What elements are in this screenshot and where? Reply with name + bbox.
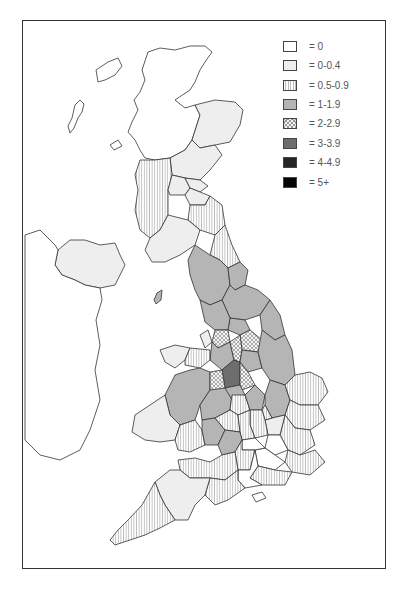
region-kent <box>285 450 325 475</box>
legend-swatch-light-grey <box>283 60 297 71</box>
region-clwyd <box>185 348 210 368</box>
legend-swatch-crosshatch <box>283 118 297 129</box>
region-merseyside <box>200 330 212 348</box>
legend-label: = 1-1.9 <box>309 99 340 110</box>
region-grampian <box>192 100 243 148</box>
legend-item-4: = 2-2.9 <box>283 117 340 130</box>
region-isle-of-wight <box>252 492 266 502</box>
legend-swatch-black <box>283 177 297 188</box>
legend-swatch-dark-grey <box>283 138 297 149</box>
legend-swatch-vertical-lines <box>283 80 297 91</box>
legend-item-6: = 4-4.9 <box>283 156 340 169</box>
legend-item-5: = 3-3.9 <box>283 137 340 150</box>
region-isle-of-man <box>154 290 162 304</box>
legend-swatch-mid-grey <box>283 99 297 110</box>
legend-item-1: = 0-0.4 <box>283 59 340 72</box>
region-berkshire <box>242 438 265 450</box>
legend-label: = 0 <box>309 41 323 52</box>
legend-item-7: = 5+ <box>283 176 329 189</box>
legend-label: = 4-4.9 <box>309 157 340 168</box>
region-skye <box>96 58 122 82</box>
legend-label: = 5+ <box>309 177 329 188</box>
legend-item-0: = 0 <box>283 40 323 53</box>
legend-item-2: = 0.5-0.9 <box>283 79 349 92</box>
legend-label: = 2-2.9 <box>309 118 340 129</box>
legend-label: = 0-0.4 <box>309 60 340 71</box>
legend-swatch-white <box>283 41 297 52</box>
legend-label: = 3-3.9 <box>309 138 340 149</box>
legend-item-3: = 1-1.9 <box>283 98 340 111</box>
region-outer-hebrides <box>68 100 84 133</box>
legend-swatch-near-black <box>283 157 297 168</box>
legend-label: = 0.5-0.9 <box>309 80 349 91</box>
